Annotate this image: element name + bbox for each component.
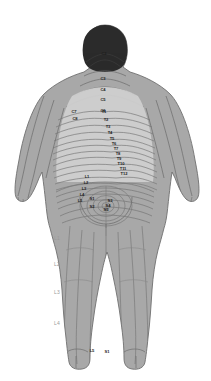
segment-label-c8: C8: [72, 116, 78, 121]
margin-label-l2: L2: [54, 261, 60, 267]
segment-label-c2: C2: [101, 51, 107, 56]
segment-label-c5: C5: [100, 97, 106, 102]
margin-label-l4: L4: [54, 320, 60, 326]
segment-label-c4: C4: [100, 87, 106, 92]
segment-label-s1: S1: [90, 196, 96, 201]
segment-label-s2: S2: [90, 204, 96, 209]
hair-region: [83, 25, 128, 72]
segment-label-c3: C3: [100, 76, 106, 81]
margin-label-l3: L3: [54, 289, 60, 295]
margin-label-l1: L1: [54, 235, 60, 241]
dermatome-figure: C2 C3 C4 C5 C6 C7 C8 T1 T2 T3 T4 T5 T6 T…: [0, 0, 211, 381]
segment-label-c7: C7: [71, 109, 77, 114]
segment-label-s1-foot: S1: [105, 349, 111, 354]
segment-label-s5: S5: [104, 207, 110, 212]
segment-label-t12: T12: [121, 171, 129, 176]
dermatome-diagram: C2 C3 C4 C5 C6 C7 C8 T1 T2 T3 T4 T5 T6 T…: [0, 0, 211, 381]
